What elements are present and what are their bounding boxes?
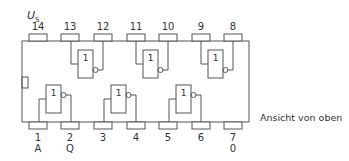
pin-number: 3 bbox=[100, 132, 106, 143]
pin-5 bbox=[159, 122, 177, 129]
view-note: Ansicht von oben bbox=[260, 112, 342, 123]
pin-number: 14 bbox=[32, 21, 45, 32]
gate-bottom-2: 1 bbox=[104, 85, 136, 122]
pin-number: 13 bbox=[64, 21, 77, 32]
pin-number: 4 bbox=[133, 132, 139, 143]
ic-pinout-diagram: US 14 13 12 11 10 9 8 1 2 3 4 5 6 7 A Q … bbox=[0, 0, 349, 161]
pin-number: 10 bbox=[162, 21, 175, 32]
svg-text:1: 1 bbox=[116, 88, 122, 98]
pin-3 bbox=[94, 122, 112, 129]
pin-14 bbox=[29, 34, 47, 41]
svg-text:1: 1 bbox=[51, 88, 57, 98]
pin-number: 7 bbox=[230, 132, 236, 143]
pin-number: 5 bbox=[165, 132, 171, 143]
pin-7 bbox=[224, 122, 242, 129]
gate-top-2: 1 bbox=[136, 41, 168, 78]
pin-12 bbox=[94, 34, 112, 41]
pin-13 bbox=[61, 34, 79, 41]
pin-8 bbox=[224, 34, 242, 41]
pin-1 bbox=[29, 122, 47, 129]
pin-signal: 0 bbox=[230, 143, 236, 154]
pin-6 bbox=[192, 122, 210, 129]
gate-top-3: 1 bbox=[201, 41, 233, 78]
pin-number: 8 bbox=[230, 21, 236, 32]
pin-signal: Q bbox=[66, 143, 74, 154]
pin-number: 6 bbox=[198, 132, 204, 143]
top-pins: 14 13 12 11 10 9 8 bbox=[29, 21, 242, 41]
pin-number: 2 bbox=[67, 132, 73, 143]
orientation-notch bbox=[22, 77, 28, 88]
gate-bottom-3: 1 bbox=[169, 85, 201, 122]
svg-text:1: 1 bbox=[83, 53, 89, 63]
pin-number: 12 bbox=[97, 21, 110, 32]
pin-signal: A bbox=[35, 143, 42, 154]
pin-2 bbox=[61, 122, 79, 129]
pin-4 bbox=[127, 122, 145, 129]
svg-text:1: 1 bbox=[181, 88, 187, 98]
gate-top-1: 1 bbox=[71, 41, 103, 78]
pin-10 bbox=[159, 34, 177, 41]
svg-text:1: 1 bbox=[148, 53, 154, 63]
pin-11 bbox=[127, 34, 145, 41]
gate-bottom-1: 1 bbox=[39, 85, 71, 122]
pin-number: 11 bbox=[130, 21, 143, 32]
bottom-pins: 1 2 3 4 5 6 7 A Q 0 bbox=[29, 122, 242, 154]
pin-number: 1 bbox=[35, 132, 41, 143]
pin-number: 9 bbox=[198, 21, 204, 32]
pin-9 bbox=[192, 34, 210, 41]
svg-text:1: 1 bbox=[213, 53, 219, 63]
